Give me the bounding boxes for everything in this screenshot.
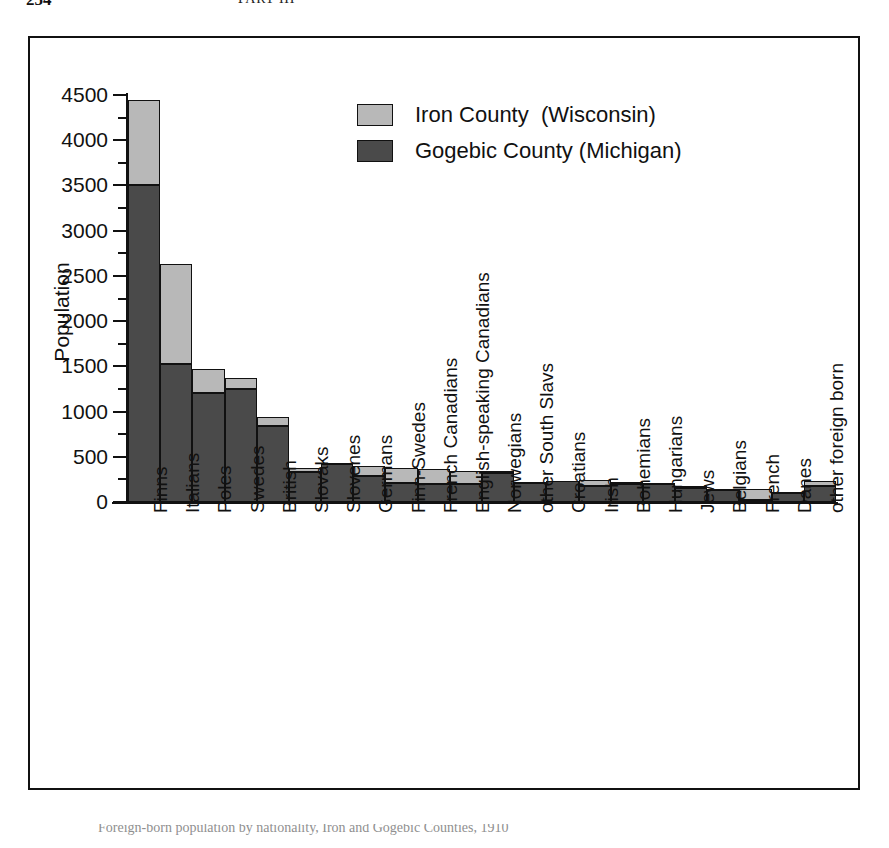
x-tick-label: French [763, 454, 782, 513]
y-tick-minor [118, 433, 126, 435]
y-tick-major [113, 139, 126, 141]
x-tick-label: other foreign born [827, 363, 846, 513]
x-tick-label: Bohemians [634, 418, 653, 513]
y-tick-label: 1000 [0, 401, 108, 422]
legend-label-iron-county: Iron County (Wisconsin) [415, 104, 656, 126]
legend-item-iron-county[interactable]: Iron County (Wisconsin) [357, 97, 682, 133]
legend-item-gogebic-county[interactable]: Gogebic County (Michigan) [357, 133, 682, 169]
bar-segment-iron-county[interactable] [128, 100, 160, 185]
legend-swatch-iron-county [357, 104, 393, 126]
figure-caption-text: Foreign-born population by nationality, … [98, 824, 508, 836]
x-tick-label: Croatians [569, 432, 588, 513]
x-tick-label: British [280, 460, 299, 513]
y-tick-major [113, 230, 126, 232]
x-tick-label: Hungarians [666, 416, 685, 513]
y-tick-minor [118, 252, 126, 254]
y-tick-label: 3500 [0, 174, 108, 195]
y-tick-label: 2000 [0, 310, 108, 331]
y-tick-minor [118, 162, 126, 164]
y-tick-label: 0 [0, 491, 108, 512]
bar-segment-iron-county[interactable] [192, 369, 224, 393]
x-tick-label: other South Slavs [537, 363, 556, 513]
x-tick-label: Finn-Swedes [409, 402, 428, 513]
y-tick-label: 4500 [0, 84, 108, 105]
x-tick-label: Danes [795, 458, 814, 513]
bar-segment-iron-county[interactable] [225, 378, 257, 389]
x-tick-label: Slovaks [312, 446, 331, 513]
x-tick-label: Italians [183, 453, 202, 513]
x-tick-label: Swedes [248, 445, 267, 513]
y-tick-major [113, 365, 126, 367]
y-tick-minor [118, 388, 126, 390]
bar-segment-iron-county[interactable] [160, 264, 192, 363]
x-tick-label: English-speaking Canadians [473, 272, 492, 513]
x-tick-label: Belgians [730, 440, 749, 513]
bar-chart: Population 05001000150020002500300035004… [0, 0, 889, 848]
bar-segment-iron-county[interactable] [257, 417, 289, 426]
x-tick-label: Jews [698, 470, 717, 513]
y-tick-major [113, 456, 126, 458]
y-tick-major [113, 501, 126, 503]
x-tick-label: Slovenes [344, 435, 363, 513]
y-tick-minor [118, 298, 126, 300]
y-tick-minor [118, 207, 126, 209]
y-tick-label: 3000 [0, 220, 108, 241]
y-tick-minor [118, 478, 126, 480]
legend-label-gogebic-county: Gogebic County (Michigan) [415, 140, 682, 162]
x-tick-label: French Canadians [441, 358, 460, 513]
y-tick-label: 2500 [0, 265, 108, 286]
y-tick-label: 4000 [0, 129, 108, 150]
y-tick-major [113, 320, 126, 322]
bar-segment-gogebic-county[interactable] [128, 185, 160, 502]
x-tick-label: Irish [602, 477, 621, 513]
y-tick-major [113, 275, 126, 277]
y-tick-major [113, 94, 126, 96]
y-tick-major [113, 184, 126, 186]
y-tick-label: 1500 [0, 355, 108, 376]
y-tick-major [113, 411, 126, 413]
chart-legend: Iron County (Wisconsin)Gogebic County (M… [357, 97, 682, 169]
y-tick-label: 500 [0, 446, 108, 467]
y-tick-minor [118, 117, 126, 119]
legend-swatch-gogebic-county [357, 140, 393, 162]
x-tick-label: Norwegians [505, 413, 524, 513]
x-tick-label: Poles [215, 465, 234, 513]
x-tick-label: Finns [151, 467, 170, 513]
figure-caption: Foreign-born population by nationality, … [0, 824, 889, 848]
bar-group[interactable] [128, 100, 160, 502]
y-tick-minor [118, 343, 126, 345]
x-tick-label: Germans [376, 435, 395, 513]
